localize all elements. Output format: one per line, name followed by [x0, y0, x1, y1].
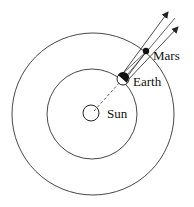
earth-label: Earth — [133, 74, 162, 89]
sun-icon — [83, 105, 99, 121]
mars-icon — [143, 48, 149, 54]
sun-label: Sun — [107, 106, 128, 121]
mars-label: Mars — [153, 48, 180, 63]
sun-earth-mars-diagram: Sun Earth Mars — [0, 0, 194, 207]
